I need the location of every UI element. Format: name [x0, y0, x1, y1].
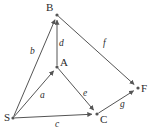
graph-canvas: abcdefg SABCF: [0, 0, 153, 136]
edge-label-d: d: [59, 38, 64, 48]
graph-node-B: [55, 13, 58, 16]
edge-label-c: c: [55, 119, 60, 129]
graph-node-F: [136, 86, 139, 89]
graph-edge-f: [58, 16, 134, 84]
edge-label-g: g: [120, 99, 125, 109]
edge-label-e: e: [83, 88, 87, 98]
graph-diagram: abcdefg SABCF: [0, 0, 153, 136]
graph-edge-e: [58, 68, 94, 110]
node-label-F: F: [141, 82, 147, 94]
node-label-S: S: [4, 111, 10, 123]
graph-edge-b: [14, 20, 55, 117]
graph-node-C: [95, 112, 98, 115]
node-label-C: C: [100, 113, 107, 125]
edges-layer: [14, 16, 135, 118]
graph-node-A: [55, 65, 58, 68]
graph-edge-c: [15, 114, 92, 118]
graph-node-S: [11, 116, 14, 119]
graph-edge-g: [98, 91, 133, 113]
node-label-B: B: [46, 1, 53, 13]
edge-label-a: a: [40, 90, 45, 100]
node-label-A: A: [60, 56, 68, 68]
node-labels-layer: SABCF: [4, 1, 147, 125]
edge-label-f: f: [103, 38, 107, 48]
edge-label-b: b: [30, 46, 35, 56]
graph-edge-a: [14, 71, 54, 117]
